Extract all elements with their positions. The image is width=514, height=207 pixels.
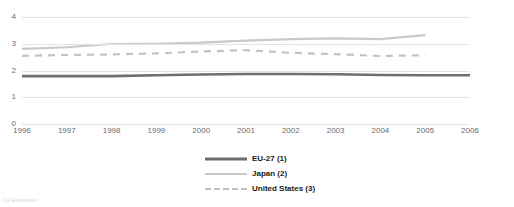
legend-label-united-states: United States (3) — [252, 184, 315, 193]
gridline-0 — [22, 124, 470, 125]
x-tick-label-1998: 1998 — [103, 126, 121, 136]
footnote: (1) Estimates. — [2, 197, 39, 202]
gridline-1 — [22, 97, 470, 98]
x-tick-label-2005: 2005 — [416, 126, 434, 136]
legend-swatch-japan-line — [205, 173, 247, 175]
x-tick-label-2002: 2002 — [282, 126, 300, 136]
series-line-united-states-3 — [22, 50, 425, 56]
legend-swatch-united-states — [205, 184, 247, 194]
legend-swatch-japan — [205, 169, 247, 179]
chart-screenshot: 01234 1996199719981999200020012002200320… — [0, 0, 514, 207]
x-tick-label-2006: 2006 — [461, 126, 479, 136]
y-tick-label-1: 1 — [0, 93, 16, 101]
series-line-japan-2 — [22, 35, 425, 49]
y-tick-label-3: 3 — [0, 40, 16, 48]
legend-swatch-eu-27-line — [205, 157, 247, 160]
legend-item-japan[interactable]: Japan (2) — [205, 166, 405, 181]
plot-area: 01234 — [22, 17, 470, 124]
gridline-4 — [22, 17, 470, 18]
legend-item-eu-27[interactable]: EU-27 (1) — [205, 151, 405, 166]
x-tick-label-1996: 1996 — [13, 126, 31, 136]
y-tick-label-4: 4 — [0, 13, 16, 21]
gridline-2 — [22, 71, 470, 72]
y-tick-label-2: 2 — [0, 67, 16, 75]
legend-label-eu-27: EU-27 (1) — [252, 154, 287, 163]
x-tick-label-2003: 2003 — [327, 126, 345, 136]
series-line-eu-27-1 — [22, 74, 470, 76]
x-axis: 1996199719981999200020012002200320042005… — [22, 126, 470, 140]
legend-swatch-united-states-line — [205, 188, 247, 190]
x-tick-label-1997: 1997 — [58, 126, 76, 136]
legend-item-united-states[interactable]: United States (3) — [205, 181, 405, 196]
legend-label-japan: Japan (2) — [252, 169, 287, 178]
x-tick-label-1999: 1999 — [147, 126, 165, 136]
x-tick-label-2000: 2000 — [192, 126, 210, 136]
x-tick-label-2001: 2001 — [237, 126, 255, 136]
x-tick-label-2004: 2004 — [371, 126, 389, 136]
legend-swatch-eu-27 — [205, 154, 247, 164]
chart-legend: EU-27 (1) Japan (2) United States (3) — [205, 151, 405, 196]
gridline-3 — [22, 44, 470, 45]
